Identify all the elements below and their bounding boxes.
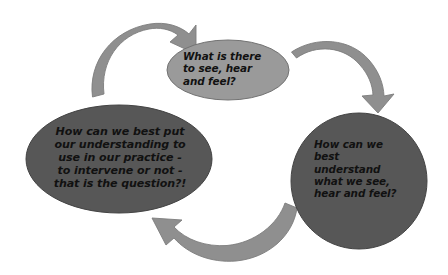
observe-node-label: What is there to see, hear and feel?: [183, 50, 287, 87]
arrow-understand-to-apply: [152, 203, 297, 261]
diagram-canvas: What is there to see, hear and feel? How…: [0, 0, 448, 275]
apply-node-label: How can we best put our understanding to…: [36, 125, 204, 190]
arrow-observe-to-understand: [292, 42, 395, 113]
understand-node-label: How can we best understand what we see, …: [314, 138, 418, 199]
